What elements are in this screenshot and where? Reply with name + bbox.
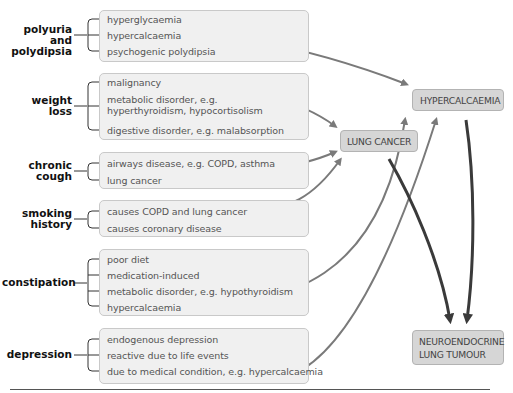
symptom-label: loss [2,106,72,117]
cause-item: causes COPD and lung cancer [107,206,247,217]
causes-box-constipation: poor diet medication-induced metabolic d… [99,249,309,316]
node-label: HYPERCALCAEMIA [420,95,503,106]
cause-item: metabolic disorder, e.g. [107,94,218,105]
causes-box-smoking-history: causes COPD and lung cancer causes coron… [99,200,309,237]
node-label: LUNG TUMOUR [419,348,503,361]
symptom-label: constipation [2,277,72,288]
symptom-smoking-history: smoking history [2,208,72,230]
node-lung-cancer: LUNG CANCER [340,130,418,152]
cause-item: hyperglycaemia [107,14,182,25]
symptom-label: cough [2,171,72,182]
symptom-label: polyuria and [2,24,72,46]
node-label: NEUROENDOCRINE [419,335,503,348]
cause-item: malignancy [107,77,161,88]
symptom-weight-loss: weight loss [2,95,72,117]
cause-item: hypercalcaemia [107,302,181,313]
cause-item: airways disease, e.g. COPD, asthma [107,158,275,169]
cause-item: reactive due to life events [107,350,229,361]
node-hypercalcaemia: HYPERCALCAEMIA [412,89,504,111]
symptom-chronic-cough: chronic cough [2,160,72,182]
symptom-constipation: constipation [2,277,72,288]
causes-box-depression: endogenous depression reactive due to li… [99,328,309,384]
cause-item: causes coronary disease [107,223,222,234]
causes-box-chronic-cough: airways disease, e.g. COPD, asthma lung … [99,152,309,189]
symptom-label: depression [2,349,72,360]
cause-item: digestive disorder, e.g. malabsorption [107,125,284,136]
node-neuroendocrine-lung-tumour: NEUROENDOCRINE LUNG TUMOUR [412,330,504,365]
cause-item: metabolic disorder, e.g. hypothyroidism [107,286,293,297]
cause-item: hyperthyroidism, hypocortisolism [107,105,263,116]
cause-item: hypercalcaemia [107,30,181,41]
bottom-divider [10,389,490,390]
node-label: LUNG CANCER [347,136,417,147]
cause-item: due to medical condition, e.g. hypercalc… [107,366,323,377]
cause-item: endogenous depression [107,334,218,345]
symptom-depression: depression [2,349,72,360]
causes-box-polyuria: hyperglycaemia hypercalcaemia psychogeni… [99,10,309,62]
cause-item: psychogenic polydipsia [107,46,215,57]
cause-item: lung cancer [107,175,162,186]
symptom-polyuria-polydipsia: polyuria and polydipsia [2,24,72,57]
bracket-lines [74,19,99,371]
symptom-label: history [2,219,72,230]
symptom-label: polydipsia [2,46,72,57]
causes-box-weight-loss: malignancy metabolic disorder, e.g. hype… [99,73,309,140]
cause-item: poor diet [107,254,149,265]
cause-item: medication-induced [107,270,199,281]
